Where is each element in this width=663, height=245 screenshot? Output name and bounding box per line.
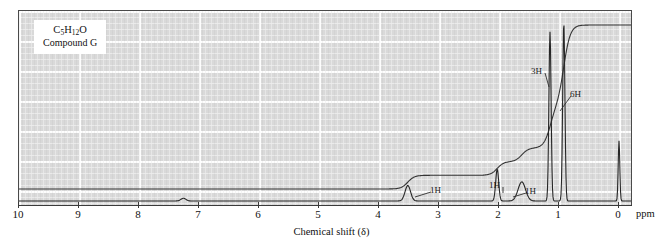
integration-curve — [19, 25, 632, 189]
tick-label-9: 9 — [75, 208, 81, 220]
compound-label-box: C5H12O Compound G — [34, 20, 106, 54]
tick-label-3: 3 — [435, 208, 441, 220]
integration-annotation-1h-1: 1H — [489, 180, 500, 190]
spectrum-traces — [19, 11, 632, 206]
spectrum-trace — [19, 26, 632, 201]
tick-label-1: 1 — [555, 208, 561, 220]
tick-label-5: 5 — [315, 208, 321, 220]
integration-annotation-1h-0: 1H — [430, 185, 441, 195]
tick-label-6: 6 — [255, 208, 261, 220]
tick-label-7: 7 — [195, 208, 201, 220]
tick-label-10: 10 — [13, 208, 24, 220]
tick-label-2: 2 — [495, 208, 501, 220]
x-axis-line — [18, 205, 632, 206]
molecular-formula: C5H12O — [43, 23, 97, 37]
x-axis-title: Chemical shift (δ) — [0, 226, 663, 237]
axis-unit-label: ppm — [636, 208, 655, 219]
integration-annotation-3h-3: 3H — [531, 66, 542, 76]
tick-label-0: 0 — [615, 208, 621, 220]
spectrum-plot-area — [18, 10, 632, 206]
compound-name: Compound G — [43, 37, 97, 50]
integration-annotation-1h-2: 1H — [525, 186, 536, 196]
tick-label-8: 8 — [135, 208, 141, 220]
integration-annotation-6h-4: 6H — [570, 89, 581, 99]
nmr-spectrum-figure: C5H12O Compound G 1H1H1H3H6H 10987654321… — [0, 0, 663, 245]
tick-label-4: 4 — [375, 208, 381, 220]
